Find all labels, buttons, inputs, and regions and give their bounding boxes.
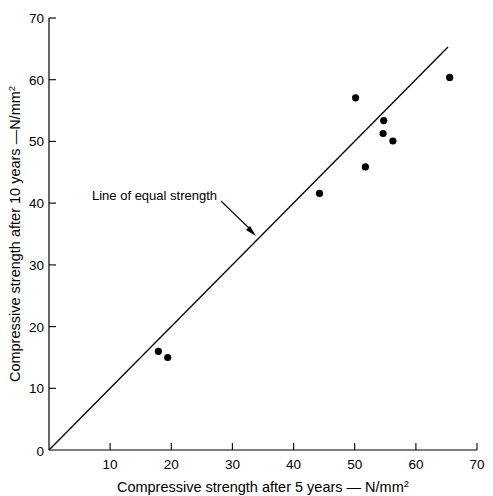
scatter-plot: 70 60 50 40 30 20 10 0 10 20 30 40 50 60 xyxy=(0,0,493,496)
x-tick-label-20: 20 xyxy=(164,457,179,472)
y-tick-label-10: 10 xyxy=(29,381,44,396)
chart-figure: 70 60 50 40 30 20 10 0 10 20 30 40 50 60 xyxy=(0,0,493,496)
x-tick-label-30: 30 xyxy=(225,457,240,472)
y-tick-label-60: 60 xyxy=(29,73,44,88)
data-point xyxy=(380,117,387,124)
y-axis-title-text: Compressive strength after 10 years —N/m… xyxy=(7,91,23,382)
y-axis-title: Compressive strength after 10 years —N/m… xyxy=(6,86,23,382)
x-axis-title: Compressive strength after 5 years — N/m… xyxy=(117,478,409,495)
data-point xyxy=(362,163,369,170)
y-tick-label-40: 40 xyxy=(29,196,44,211)
data-point xyxy=(164,354,171,361)
line-of-equal-strength xyxy=(49,47,448,450)
x-tick-label-50: 50 xyxy=(347,457,362,472)
data-point xyxy=(352,94,359,101)
y-tick-label-70: 70 xyxy=(29,11,44,26)
data-points xyxy=(155,74,454,361)
annotation-arrowhead xyxy=(246,226,256,236)
data-point xyxy=(446,74,453,81)
data-point xyxy=(155,348,162,355)
x-axis-title-text: Compressive strength after 5 years — N/m… xyxy=(117,479,404,495)
data-point xyxy=(389,137,396,144)
data-point xyxy=(380,130,387,137)
y-axis-ticks xyxy=(49,18,56,388)
svg-text:Compressive strength after 5 y: Compressive strength after 5 years — N/m… xyxy=(117,478,409,495)
annotation-label: Line of equal strength xyxy=(92,188,217,203)
y-tick-label-30: 30 xyxy=(29,258,44,273)
y-tick-label-50: 50 xyxy=(29,134,44,149)
annotation-leader-line xyxy=(221,201,253,232)
svg-text:Compressive strength after 10: Compressive strength after 10 years —N/m… xyxy=(6,86,23,382)
y-axis-title-superscript: 2 xyxy=(6,86,17,91)
x-tick-label-10: 10 xyxy=(103,457,118,472)
x-tick-label-60: 60 xyxy=(408,457,423,472)
annotation-line-of-equal-strength: Line of equal strength xyxy=(92,188,256,236)
data-point xyxy=(316,190,323,197)
y-axis-tick-labels: 70 60 50 40 30 20 10 0 xyxy=(29,11,44,459)
origin-label: 0 xyxy=(36,444,44,459)
x-axis-tick-labels: 10 20 30 40 50 60 70 xyxy=(103,457,485,472)
x-tick-label-70: 70 xyxy=(469,457,484,472)
x-tick-label-40: 40 xyxy=(286,457,301,472)
x-axis-title-superscript: 2 xyxy=(404,478,409,489)
x-axis-ticks xyxy=(110,443,477,450)
y-tick-label-20: 20 xyxy=(29,320,44,335)
